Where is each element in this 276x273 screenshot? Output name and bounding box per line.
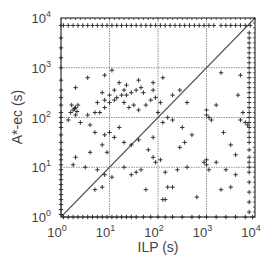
data-point-marker bbox=[207, 115, 211, 119]
data-point-marker bbox=[71, 23, 75, 27]
data-point-marker bbox=[110, 175, 114, 179]
diagonal-reference-line bbox=[61, 18, 255, 217]
data-point-marker bbox=[241, 110, 245, 114]
data-point-marker bbox=[170, 93, 174, 97]
data-point-marker bbox=[105, 150, 109, 154]
data-point-marker bbox=[115, 23, 119, 27]
data-point-marker bbox=[178, 88, 182, 92]
data-point-marker bbox=[122, 88, 126, 92]
data-point-marker bbox=[112, 88, 116, 92]
data-point-marker bbox=[247, 180, 251, 184]
y-tick-label: 104 bbox=[32, 9, 51, 26]
data-point-marker bbox=[78, 120, 82, 124]
y-tick-label: 101 bbox=[32, 158, 51, 175]
scatter-chart: 100101102103104 100101102103104 ILP (s) … bbox=[0, 0, 276, 273]
data-point-marker bbox=[102, 73, 106, 77]
data-point-marker bbox=[136, 108, 140, 112]
data-point-marker bbox=[233, 153, 237, 157]
x-tick-label: 100 bbox=[47, 223, 66, 240]
data-point-marker bbox=[69, 103, 73, 107]
data-point-marker bbox=[180, 125, 184, 129]
data-point-marker bbox=[202, 160, 206, 164]
data-point-marker bbox=[88, 123, 92, 127]
data-point-marker bbox=[247, 130, 251, 134]
data-point-marker bbox=[66, 23, 70, 27]
data-point-marker bbox=[83, 165, 87, 169]
data-point-marker bbox=[170, 118, 174, 122]
data-point-marker bbox=[153, 95, 157, 99]
data-point-marker bbox=[134, 23, 138, 27]
data-point-marker bbox=[247, 85, 251, 89]
data-point-marker bbox=[102, 98, 106, 102]
data-point-marker bbox=[247, 31, 251, 35]
data-point-marker bbox=[247, 105, 251, 109]
data-point-marker bbox=[151, 88, 155, 92]
x-tick-label: 101 bbox=[96, 223, 115, 240]
y-tick-label: 102 bbox=[32, 109, 51, 126]
data-point-marker bbox=[85, 113, 89, 117]
data-point-marker bbox=[187, 23, 191, 27]
data-point-marker bbox=[66, 118, 70, 122]
data-point-marker bbox=[229, 143, 233, 147]
data-point-marker bbox=[132, 103, 136, 107]
data-point-marker bbox=[158, 23, 162, 27]
data-point-marker bbox=[153, 23, 157, 27]
data-point-marker bbox=[76, 23, 80, 27]
data-point-marker bbox=[243, 120, 247, 124]
data-point-marker bbox=[229, 23, 233, 27]
data-point-marker bbox=[247, 165, 251, 169]
data-point-marker bbox=[136, 78, 140, 82]
y-axis-label: A*-ec (s) bbox=[9, 90, 25, 144]
data-point-marker bbox=[93, 130, 97, 134]
data-point-marker bbox=[238, 23, 242, 27]
data-point-marker bbox=[110, 68, 114, 72]
data-point-marker bbox=[112, 98, 116, 102]
data-point-marker bbox=[173, 23, 177, 27]
data-point-marker bbox=[73, 155, 77, 159]
data-point-marker bbox=[110, 23, 114, 27]
data-point-marker bbox=[185, 100, 189, 104]
data-point-marker bbox=[100, 143, 104, 147]
data-point-marker bbox=[100, 90, 104, 94]
data-point-marker bbox=[214, 103, 218, 107]
data-point-marker bbox=[102, 133, 106, 137]
data-point-marker bbox=[214, 160, 218, 164]
data-point-marker bbox=[219, 71, 223, 75]
data-point-marker bbox=[247, 36, 251, 40]
data-point-marker bbox=[98, 110, 102, 114]
data-point-marker bbox=[166, 115, 170, 119]
data-point-marker bbox=[85, 23, 89, 27]
data-point-marker bbox=[247, 148, 251, 152]
data-point-marker bbox=[247, 115, 251, 119]
data-point-marker bbox=[127, 105, 131, 109]
data-point-marker bbox=[247, 140, 251, 144]
x-tick-label: 104 bbox=[241, 223, 260, 240]
data-point-marker bbox=[107, 130, 111, 134]
data-point-marker bbox=[117, 125, 121, 129]
x-tick-label: 102 bbox=[144, 223, 163, 240]
data-point-marker bbox=[182, 23, 186, 27]
data-point-marker bbox=[247, 66, 251, 70]
data-point-marker bbox=[151, 135, 155, 139]
data-point-marker bbox=[149, 23, 153, 27]
data-point-marker bbox=[247, 155, 251, 159]
data-point-marker bbox=[90, 23, 94, 27]
data-point-marker bbox=[139, 85, 143, 89]
data-point-marker bbox=[175, 168, 179, 172]
data-point-marker bbox=[144, 23, 148, 27]
data-point-marker bbox=[81, 23, 85, 27]
data-point-marker bbox=[95, 23, 99, 27]
data-point-marker bbox=[204, 113, 208, 117]
data-point-marker bbox=[233, 173, 237, 177]
data-point-marker bbox=[247, 56, 251, 60]
data-point-marker bbox=[247, 100, 251, 104]
data-point-marker bbox=[168, 23, 172, 27]
data-point-marker bbox=[247, 190, 251, 194]
data-point-marker bbox=[224, 23, 228, 27]
data-point-marker bbox=[107, 93, 111, 97]
data-point-marker bbox=[95, 100, 99, 104]
data-point-marker bbox=[247, 210, 251, 214]
data-point-marker bbox=[124, 23, 128, 27]
data-point-marker bbox=[204, 158, 208, 162]
data-point-marker bbox=[163, 170, 167, 174]
